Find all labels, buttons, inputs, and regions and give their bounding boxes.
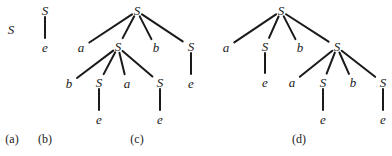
- tree-panel-d: SaSbSeaSbSee(d): [223, 3, 387, 146]
- tree-node-terminal: e: [96, 112, 102, 127]
- tree-node-terminal: b: [297, 40, 304, 55]
- tree-node-terminal: a: [78, 40, 85, 55]
- tree-edge: [342, 51, 375, 77]
- tree-edge: [123, 51, 153, 77]
- tree-node-terminal: a: [124, 76, 131, 91]
- tree-edge: [269, 16, 279, 37]
- parse-tree-figure: S(a)Se(b)SaSbSebSaSee(c)SaSbSeaSbSee(d): [0, 0, 392, 156]
- tree-node-terminal: a: [289, 75, 296, 90]
- tree-edge: [89, 14, 132, 42]
- tree-node-terminal: b: [153, 40, 160, 55]
- tree-node-terminal: a: [223, 40, 230, 55]
- tree-node-nonterminal: S: [278, 3, 285, 18]
- tree-node-nonterminal: S: [134, 3, 141, 18]
- panel-caption: (a): [5, 132, 18, 146]
- tree-node-terminal: b: [66, 76, 73, 91]
- tree-edge: [327, 53, 335, 74]
- tree-node-nonterminal: S: [262, 39, 269, 54]
- tree-node-nonterminal: S: [188, 39, 195, 54]
- tree-node-nonterminal: S: [42, 3, 49, 18]
- tree-node-nonterminal: S: [334, 39, 341, 54]
- tree-edge: [119, 53, 124, 74]
- tree-node-terminal: e: [157, 112, 163, 127]
- tree-edge: [286, 14, 329, 41]
- tree-node-terminal: e: [42, 40, 48, 55]
- tree-node-nonterminal: S: [157, 75, 164, 90]
- panel-caption: (c): [130, 132, 143, 146]
- tree-node-nonterminal: S: [320, 75, 327, 90]
- tree-node-nonterminal: S: [380, 75, 387, 90]
- tree-panel-c: SaSbSebSaSee(c): [66, 3, 195, 146]
- tree-panel-b: Se(b): [38, 3, 52, 146]
- tree-node-terminal: b: [350, 75, 357, 90]
- tree-node-nonterminal: S: [8, 22, 15, 37]
- panel-caption: (d): [292, 132, 306, 146]
- panel-caption: (b): [38, 132, 52, 146]
- tree-node-terminal: e: [320, 112, 326, 127]
- tree-node-terminal: e: [262, 75, 268, 90]
- tree-panel-a: S(a): [5, 22, 18, 146]
- tree-node-terminal: e: [188, 76, 194, 91]
- tree-node-terminal: e: [380, 112, 386, 127]
- tree-edge: [142, 14, 183, 41]
- tree-node-nonterminal: S: [115, 39, 122, 54]
- tree-node-nonterminal: S: [96, 75, 103, 90]
